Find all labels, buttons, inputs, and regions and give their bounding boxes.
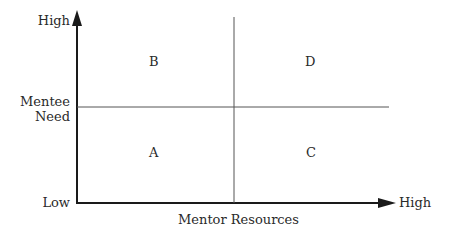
quadrant-c-label: C xyxy=(306,146,316,160)
quadrant-d-label: D xyxy=(305,55,315,69)
x-axis-high-label: High xyxy=(399,196,431,210)
quadrant-a-label: A xyxy=(149,146,158,160)
y-axis-arrow-icon xyxy=(72,10,82,26)
y-axis-title-line1: Mentee xyxy=(10,95,70,109)
y-axis-title-line2: Need xyxy=(10,110,70,124)
y-axis-low-label: Low xyxy=(20,196,70,210)
x-axis-title: Mentor Resources xyxy=(178,213,299,227)
y-axis-high-label: High xyxy=(20,14,70,28)
quadrant-b-label: B xyxy=(149,55,159,69)
x-axis-arrow-icon xyxy=(378,198,396,208)
